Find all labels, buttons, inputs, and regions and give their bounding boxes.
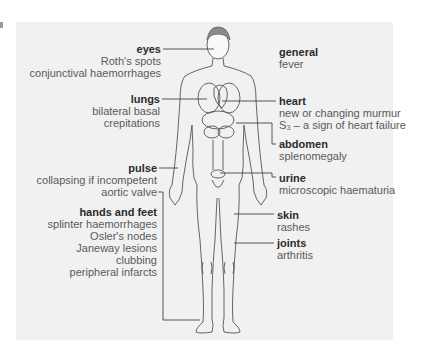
callout-title: abdomen — [279, 138, 347, 150]
callout-urine: urine microscopic haematuria — [279, 172, 395, 196]
callout-text: S₃ – a sign of heart failure — [279, 119, 406, 131]
callout-title: hands and feet — [48, 206, 157, 218]
body-outline — [169, 27, 266, 333]
callout-general: general fever — [279, 46, 318, 70]
callout-text: aortic valve — [37, 186, 157, 198]
callout-text: Janeway lesions — [48, 242, 157, 254]
callout-text: collapsing if incompetent — [37, 174, 157, 186]
callout-title: heart — [279, 95, 406, 107]
callout-lungs: lungs bilateral basal crepitations — [92, 93, 160, 129]
callout-text: arthritis — [277, 249, 313, 261]
callout-eyes: eyes Roth's spots conjunctival haemorrha… — [30, 43, 161, 79]
callout-text: splinter haemorrhages — [48, 218, 157, 230]
callout-text: fever — [279, 58, 318, 70]
callout-title: pulse — [37, 162, 157, 174]
callout-text: new or changing murmur — [279, 107, 406, 119]
callout-heart: heart new or changing murmur S₃ – a sign… — [279, 95, 406, 131]
callout-text: conjunctival haemorrhages — [30, 67, 161, 79]
callout-text: peripheral infarcts — [48, 266, 157, 278]
callout-title: urine — [279, 172, 395, 184]
callout-text: clubbing — [48, 254, 157, 266]
callout-skin: skin rashes — [277, 209, 310, 233]
callout-leader-lines — [158, 49, 276, 320]
callout-text: Roth's spots — [30, 55, 161, 67]
callout-joints: joints arthritis — [277, 237, 313, 261]
callout-text: Osler's nodes — [48, 230, 157, 242]
callout-title: skin — [277, 209, 310, 221]
callout-text: crepitations — [92, 117, 160, 129]
callout-title: lungs — [92, 93, 160, 105]
callout-text: microscopic haematuria — [279, 184, 395, 196]
callout-title: eyes — [30, 43, 161, 55]
callout-text: splenomegaly — [279, 150, 347, 162]
callout-hands-and-feet: hands and feet splinter haemorrhages Osl… — [48, 206, 157, 278]
callout-text: rashes — [277, 221, 310, 233]
callout-title: joints — [277, 237, 313, 249]
callout-abdomen: abdomen splenomegaly — [279, 138, 347, 162]
callout-title: general — [279, 46, 318, 58]
callout-pulse: pulse collapsing if incompetent aortic v… — [37, 162, 157, 198]
callout-text: bilateral basal — [92, 105, 160, 117]
